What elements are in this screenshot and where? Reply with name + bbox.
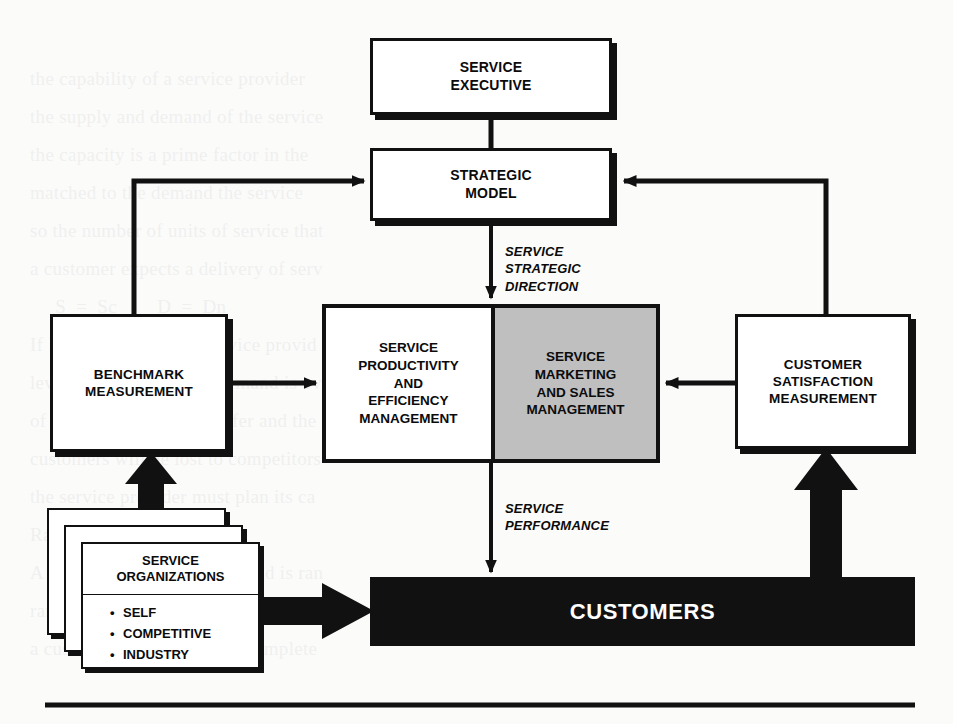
service-organizations-card-front[interactable]: SERVICE ORGANIZATIONS SELF COMPETITIVE I… (81, 542, 260, 669)
node-service-marketing-management-label: SERVICE MARKETING AND SALES MANAGEMENT (526, 348, 624, 419)
flow-label-service-performance: SERVICE PERFORMANCE (505, 500, 609, 535)
node-customers[interactable]: CUSTOMERS (370, 577, 915, 646)
node-service-marketing-management[interactable]: SERVICE MARKETING AND SALES MANAGEMENT (491, 308, 656, 459)
node-strategic-model-label: STRATEGIC MODEL (450, 167, 532, 203)
node-benchmark-measurement[interactable]: BENCHMARK MEASUREMENT (50, 314, 228, 452)
node-service-organizations-stack[interactable]: SERVICE ORGANIZATIONS SELF COMPETITIVE I… (47, 508, 262, 673)
node-service-productivity-management[interactable]: SERVICE PRODUCTIVITY AND EFFICIENCY MANA… (326, 308, 491, 459)
list-item: COMPETITIVE (123, 623, 258, 644)
block-arrow-organizations-to-customers (245, 583, 374, 639)
node-strategic-model[interactable]: STRATEGIC MODEL (370, 148, 612, 221)
diagram-page: the capability of a service providerthe … (0, 0, 953, 724)
node-customer-satisfaction-measurement-label: CUSTOMER SATISFACTION MEASUREMENT (769, 356, 877, 408)
node-service-executive-label: SERVICE EXECUTIVE (450, 59, 531, 95)
list-item: SELF (123, 602, 258, 623)
flow-label-service-strategic-direction: SERVICE STRATEGIC DIRECTION (505, 243, 581, 295)
node-customers-label: CUSTOMERS (570, 599, 716, 625)
node-service-management-matrix: SERVICE PRODUCTIVITY AND EFFICIENCY MANA… (322, 304, 660, 463)
node-service-executive[interactable]: SERVICE EXECUTIVE (370, 38, 612, 115)
node-customer-satisfaction-measurement[interactable]: CUSTOMER SATISFACTION MEASUREMENT (735, 314, 911, 449)
list-item: INDUSTRY (123, 644, 258, 665)
node-service-productivity-management-label: SERVICE PRODUCTIVITY AND EFFICIENCY MANA… (358, 339, 459, 428)
service-organizations-title: SERVICE ORGANIZATIONS (83, 544, 258, 595)
block-arrow-customers-to-satisfaction (794, 448, 858, 580)
node-benchmark-measurement-label: BENCHMARK MEASUREMENT (85, 366, 193, 401)
connector-satisfaction-to-strategic (624, 181, 826, 314)
service-organizations-list: SELF COMPETITIVE INDUSTRY (83, 595, 258, 668)
connector-benchmark-to-strategic (134, 181, 364, 314)
